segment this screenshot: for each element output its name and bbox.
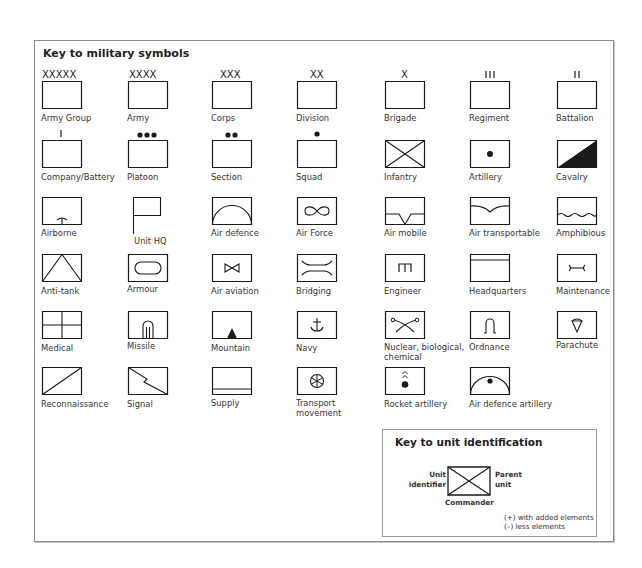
infantry-icon — [384, 127, 434, 171]
svg-text:X: X — [401, 69, 408, 80]
army-icon: XXXX — [127, 68, 177, 112]
unit-label-line2: unit — [495, 480, 511, 489]
cavalry-icon — [556, 127, 606, 171]
air-defence-artillery-icon — [469, 354, 519, 398]
supply-icon — [211, 354, 261, 398]
symbol-label: Section — [211, 172, 242, 182]
symbol-label: Mountain — [211, 343, 250, 353]
added-elements-note: (+) with added elements — [504, 513, 594, 522]
airborne-icon — [41, 184, 91, 228]
corps-icon: XXX — [211, 68, 261, 112]
headquarters-icon — [469, 241, 519, 285]
unit-hq-icon — [127, 184, 177, 234]
symbol-label: Air mobile — [384, 228, 427, 238]
symbol-label: Company/Battery — [41, 172, 115, 182]
air-mobile-icon — [384, 184, 434, 228]
symbol-label: Artillery — [469, 172, 502, 182]
army-group-icon: XXXXX — [41, 68, 91, 112]
symbol-label: Engineer — [384, 286, 421, 296]
identifier-label-line2: identifier — [406, 480, 446, 489]
symbol-label: Ordnance — [469, 342, 510, 352]
unit-identification-key: Key to unit identification Unit identifi… — [382, 429, 597, 537]
amphibious-icon — [556, 184, 606, 228]
symbol-label: Division — [296, 113, 329, 123]
air-transportable-icon — [469, 184, 519, 228]
maintenance-icon — [556, 241, 606, 285]
company-battery-icon — [41, 127, 91, 171]
anti-tank-icon — [41, 241, 91, 285]
svg-text:XX: XX — [310, 69, 324, 80]
symbol-label: Rocket artillery — [384, 399, 447, 409]
battalion-icon — [556, 68, 606, 112]
reconnaissance-icon — [41, 354, 91, 398]
medical-icon — [41, 298, 91, 342]
squad-icon — [296, 127, 346, 171]
symbol-label: Maintenance — [556, 286, 610, 296]
mountain-icon — [211, 298, 261, 342]
svg-text:XXX: XXX — [220, 69, 241, 80]
parachute-icon — [556, 298, 606, 342]
symbol-label: Battalion — [556, 113, 594, 123]
transport-movement-icon — [296, 354, 346, 398]
symbol-label: Cavalry — [556, 172, 588, 182]
symbol-label: Army Group — [41, 113, 91, 123]
unit-identification-diagram-icon — [447, 466, 493, 500]
nbc-icon — [384, 298, 434, 342]
less-elements-note: (–) less elements — [504, 522, 565, 531]
symbol-label: Reconnaissance — [41, 399, 108, 409]
symbol-label: Squad — [296, 172, 322, 182]
military-symbols-key: Key to military symbols XXXXX Army Group… — [34, 40, 614, 542]
division-icon: XX — [296, 68, 346, 112]
symbol-label: Airborne — [41, 228, 77, 238]
symbol-label: Air transportable — [469, 228, 540, 238]
symbol-label: Supply — [211, 398, 240, 408]
symbol-label: Air Force — [296, 228, 333, 238]
symbol-label: Armour — [127, 284, 158, 294]
symbol-label: Brigade — [384, 113, 416, 123]
unit-identification-title: Key to unit identification — [395, 436, 542, 448]
air-force-icon — [296, 184, 346, 228]
symbol-label: Missile — [127, 341, 155, 351]
key-title: Key to military symbols — [43, 47, 189, 60]
rocket-artillery-icon — [384, 354, 434, 398]
symbol-label: Platoon — [127, 172, 158, 182]
parent-label-line1: Parent — [495, 470, 522, 479]
bridging-icon — [296, 241, 346, 285]
symbol-label: Navy — [296, 343, 317, 353]
section-icon — [211, 127, 261, 171]
svg-text:XXXXX: XXXXX — [42, 69, 76, 80]
symbol-label: Medical — [41, 343, 73, 353]
symbol-label: Corps — [211, 113, 235, 123]
navy-icon — [296, 298, 346, 342]
symbol-label: Bridging — [296, 286, 331, 296]
air-defence-icon — [211, 184, 261, 228]
symbol-label: Anti-tank — [41, 286, 79, 296]
platoon-icon — [127, 127, 177, 171]
unit-label-line1: Unit — [428, 470, 446, 479]
engineer-icon — [384, 241, 434, 285]
missile-icon — [127, 298, 177, 342]
symbol-label: Headquarters — [469, 286, 526, 296]
regiment-icon — [469, 68, 519, 112]
symbol-label: Air defence — [211, 228, 259, 238]
symbol-label: Signal — [127, 399, 153, 409]
svg-text:XXXX: XXXX — [129, 69, 157, 80]
ordnance-icon — [469, 298, 519, 342]
symbol-label: Parachute — [556, 340, 598, 350]
brigade-icon: X — [384, 68, 434, 112]
artillery-icon — [469, 127, 519, 171]
signal-icon — [127, 354, 177, 398]
symbol-label: Regiment — [469, 113, 509, 123]
symbol-label: Infantry — [384, 172, 417, 182]
symbol-label: Amphibious — [556, 228, 605, 238]
symbol-label: Air aviation — [211, 286, 259, 296]
air-aviation-icon — [211, 241, 261, 285]
symbol-label: Transport movement — [296, 398, 382, 418]
armour-icon — [127, 241, 177, 285]
symbol-label: Army — [127, 113, 149, 123]
symbol-label: Air defence artillery — [469, 399, 552, 409]
commander-label: Commander — [445, 498, 494, 507]
